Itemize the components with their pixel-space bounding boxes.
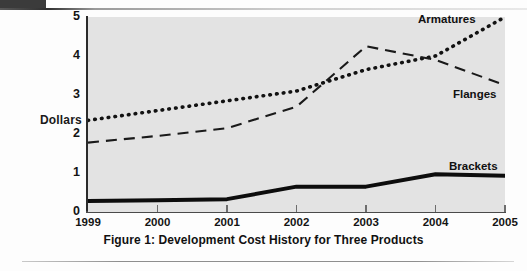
y-axis-title: Dollars	[14, 113, 82, 127]
series-label-armatures: Armatures	[418, 13, 476, 25]
x-tick-label-2005: 2005	[485, 216, 525, 228]
x-tick-mark-2000	[157, 205, 158, 212]
figure-caption: Figure 1: Development Cost History for T…	[0, 233, 527, 247]
x-tick-mark-2005	[504, 205, 505, 212]
x-tick-label-2001: 2001	[207, 216, 247, 228]
y-tick-label-3: 3	[62, 87, 80, 101]
y-tick-label-4: 4	[62, 48, 80, 62]
y-tick-label-2: 2	[62, 126, 80, 140]
x-tick-mark-2004	[435, 205, 436, 212]
x-tick-mark-2001	[226, 205, 227, 212]
x-tick-label-2000: 2000	[138, 216, 178, 228]
plot-area	[88, 17, 505, 212]
y-tick-label-1: 1	[62, 165, 80, 179]
x-tick-label-2002: 2002	[277, 216, 317, 228]
bottom-rule-divider	[22, 261, 514, 262]
x-tick-mark-2002	[296, 205, 297, 212]
y-tick-label-5: 5	[62, 9, 80, 23]
x-tick-label-2004: 2004	[416, 216, 456, 228]
x-tick-label-2003: 2003	[346, 216, 386, 228]
series-label-flanges: Flanges	[453, 88, 496, 100]
chart-series-canvas	[88, 17, 505, 212]
series-line-armatures	[88, 17, 505, 120]
series-label-brackets: Brackets	[449, 160, 498, 172]
series-line-brackets	[88, 174, 505, 201]
x-tick-mark-2003	[365, 205, 366, 212]
figure-chart: Dollars 0 1 2 3 4 5 1999 2000 2001 2002 …	[0, 0, 527, 271]
series-line-flanges	[88, 46, 505, 142]
x-tick-label-1999: 1999	[68, 216, 108, 228]
